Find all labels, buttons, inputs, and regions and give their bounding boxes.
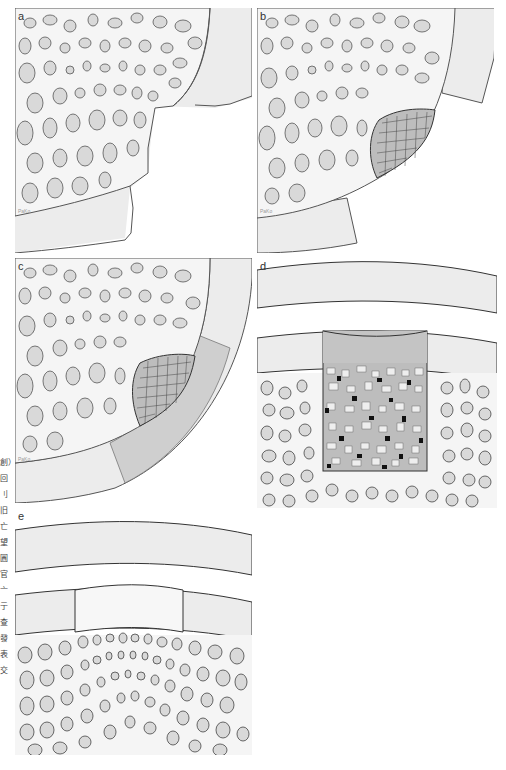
- panel-c: c PaKo: [15, 258, 252, 503]
- panel-d: d: [257, 258, 497, 508]
- panel-label-c: c: [18, 260, 24, 272]
- panel-a: a PaKo: [15, 8, 252, 253]
- margin-text: 創）回 刂 旧 亡 望 圓 官 亠 亍 查 發 表 交: [0, 455, 12, 679]
- signature-b: PaKo: [260, 208, 272, 214]
- panel-label-a: a: [18, 10, 24, 22]
- panel-label-e: e: [18, 510, 24, 522]
- panel-e: e: [15, 510, 252, 755]
- diagram-c: [15, 258, 252, 503]
- diagram-b: [257, 8, 494, 253]
- diagram-a: [15, 8, 252, 253]
- panel-b: b PaKo: [257, 8, 494, 253]
- panel-label-d: d: [260, 260, 266, 272]
- diagram-e: [15, 510, 252, 755]
- panel-label-b: b: [260, 10, 266, 22]
- diagram-d: [257, 258, 497, 508]
- signature-c: PaKo: [18, 456, 30, 462]
- signature-a: PaKo: [18, 208, 30, 214]
